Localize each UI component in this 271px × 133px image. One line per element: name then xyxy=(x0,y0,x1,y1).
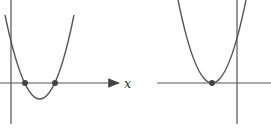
left-graph: x xyxy=(0,0,132,124)
right-tangent-point xyxy=(209,80,215,86)
x-axis-label: x xyxy=(124,76,132,91)
left-root-point-1 xyxy=(22,80,28,86)
diagram-canvas: x xyxy=(0,0,271,133)
left-root-point-2 xyxy=(52,80,58,86)
right-graph xyxy=(157,0,271,124)
right-parabola xyxy=(178,0,246,83)
left-parabola xyxy=(5,15,74,99)
